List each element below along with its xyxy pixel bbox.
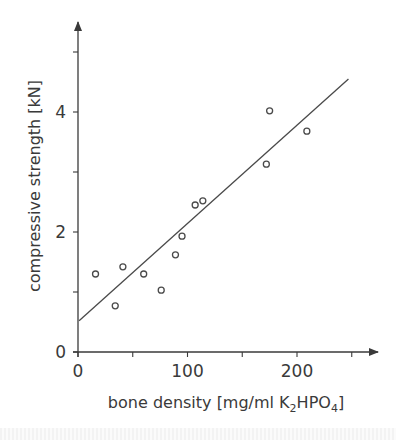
y-tick-label: 2 [55, 222, 66, 242]
data-point [172, 252, 178, 258]
data-point [158, 287, 164, 293]
data-point [263, 161, 269, 167]
data-point [192, 202, 198, 208]
data-point [179, 233, 185, 239]
fit-line [79, 79, 348, 321]
y-tick-label: 0 [55, 342, 66, 362]
x-axis: 0100200 [73, 352, 378, 381]
data-point [267, 108, 273, 114]
data-point [112, 303, 118, 309]
y-axis: 024 [55, 22, 78, 362]
x-axis-title: bone density [mg/ml K2HPO4] [108, 393, 344, 415]
data-point [93, 271, 99, 277]
bottom-band [0, 428, 396, 440]
x-tick-label: 100 [171, 361, 203, 381]
y-tick-label: 4 [55, 102, 66, 122]
scatter-chart: 024 0100200 compressive strength [kN] bo… [0, 0, 396, 440]
regression-line [79, 79, 348, 321]
data-point [120, 264, 126, 270]
data-point [304, 128, 310, 134]
x-tick-label: 0 [73, 361, 84, 381]
y-axis-title: compressive strength [kN] [25, 80, 44, 292]
data-point [141, 271, 147, 277]
data-point [200, 198, 206, 204]
x-tick-label: 200 [281, 361, 313, 381]
